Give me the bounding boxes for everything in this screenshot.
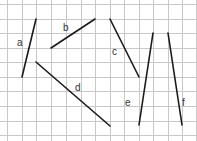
diagram-canvas: abcdef xyxy=(0,0,197,141)
segment-label-f: f xyxy=(182,97,185,108)
segment-label-b: b xyxy=(63,22,69,33)
segment-label-a: a xyxy=(17,37,23,48)
segment-d xyxy=(36,62,110,126)
segment-label-e: e xyxy=(125,97,131,108)
segment-e xyxy=(139,33,153,125)
segment-labels: abcdef xyxy=(17,22,185,108)
segment-grid-diagram: abcdef xyxy=(0,0,197,141)
grid xyxy=(0,0,197,141)
line-segments xyxy=(22,19,182,126)
segment-f xyxy=(168,33,182,125)
segment-label-c: c xyxy=(112,46,117,57)
segment-label-d: d xyxy=(75,82,81,93)
